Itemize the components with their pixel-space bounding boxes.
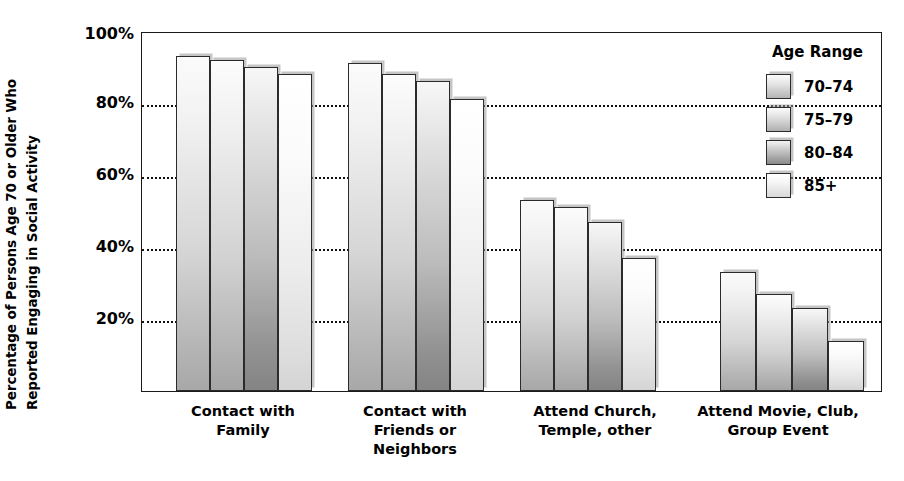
bar-friends-70-74 xyxy=(348,63,382,391)
legend-swatch-75-79 xyxy=(766,107,791,132)
legend-label-70-74: 70–74 xyxy=(804,78,853,96)
y-axis-title: Percentage of Persons Age 70 or Older Wh… xyxy=(0,0,62,420)
bar-movie-85-plus xyxy=(828,341,864,391)
plot-area: Age Range 70–74 75–79 80–84 85+ xyxy=(141,32,882,392)
x-label-attend-movie: Attend Movie, Club, Group Event xyxy=(670,402,886,440)
legend-item-70-74: 70–74 xyxy=(766,70,886,103)
y-tick-100: 100% xyxy=(68,24,134,43)
y-tick-40: 40% xyxy=(68,237,134,256)
legend-label-75-79: 75–79 xyxy=(804,111,853,129)
x-label-line-1: Attend Movie, Club, xyxy=(670,402,886,421)
y-tick-20: 20% xyxy=(68,309,134,328)
x-label-contact-with-friends: Contact with Friends or Neighbors xyxy=(313,402,517,459)
y-axis-title-line-1: Percentage of Persons Age 70 or Older Wh… xyxy=(3,79,19,410)
legend-label-85-plus: 85+ xyxy=(804,177,837,195)
bar-family-85-plus xyxy=(278,74,312,391)
bar-friends-85-plus xyxy=(450,99,484,391)
x-label-line-2: Friends or xyxy=(313,421,517,440)
bar-church-80-84 xyxy=(588,222,622,391)
bar-church-70-74 xyxy=(520,200,554,391)
legend-item-75-79: 75–79 xyxy=(766,103,886,136)
legend-item-85-plus: 85+ xyxy=(766,169,886,202)
bar-family-80-84 xyxy=(244,67,278,391)
y-tick-60: 60% xyxy=(68,165,134,184)
x-label-line-1: Contact with xyxy=(313,402,517,421)
x-label-line-3: Neighbors xyxy=(313,440,517,459)
bar-friends-75-79 xyxy=(382,74,416,391)
x-label-line-2: Group Event xyxy=(670,421,886,440)
y-tick-80: 80% xyxy=(68,93,134,112)
bar-family-75-79 xyxy=(210,60,244,391)
bar-movie-75-79 xyxy=(756,294,792,391)
legend-label-80-84: 80–84 xyxy=(804,144,853,162)
legend-item-80-84: 80–84 xyxy=(766,136,886,169)
y-axis-tick-labels: 100% 80% 60% 40% 20% xyxy=(66,0,134,481)
legend-swatch-85-plus xyxy=(766,173,791,198)
bar-chart: Percentage of Persons Age 70 or Older Wh… xyxy=(0,0,904,481)
x-label-line-2: Temple, other xyxy=(493,421,697,440)
y-axis-title-line-2: Reported Engaging in Social Activity xyxy=(24,135,40,410)
bar-church-75-79 xyxy=(554,207,588,391)
bar-movie-70-74 xyxy=(720,272,756,391)
bar-movie-80-84 xyxy=(792,308,828,391)
legend-title: Age Range xyxy=(772,43,886,61)
legend: Age Range 70–74 75–79 80–84 85+ xyxy=(766,43,886,202)
x-label-line-1: Attend Church, xyxy=(493,402,697,421)
legend-swatch-70-74 xyxy=(766,74,791,99)
bar-friends-80-84 xyxy=(416,81,450,391)
legend-swatch-80-84 xyxy=(766,140,791,165)
bar-family-70-74 xyxy=(176,56,210,391)
x-label-attend-church: Attend Church, Temple, other xyxy=(493,402,697,440)
bar-church-85-plus xyxy=(622,258,656,391)
